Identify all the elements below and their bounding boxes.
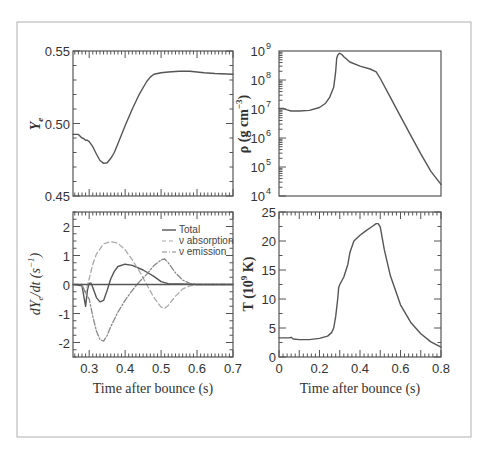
y-tick-label: 10 <box>251 189 265 204</box>
x-tick-label: 0.2 <box>310 361 328 376</box>
y-axis-title: T (109 K) <box>239 256 257 311</box>
y-tick-exponent: 8 <box>266 70 271 80</box>
y-tick-label: 10 <box>251 160 265 175</box>
x-tick-label: 0.3 <box>80 361 98 376</box>
y-tick-exponent: 5 <box>266 157 271 167</box>
x-tick-label: 0.4 <box>351 361 369 376</box>
y-tick-label: -2 <box>58 336 70 351</box>
x-axis-title: Time after bounce (s) <box>93 381 214 397</box>
y-tick-label: 1 <box>63 249 70 264</box>
y-tick-label: 20 <box>262 234 276 249</box>
y-tick-label: 0.50 <box>45 117 70 132</box>
y-tick-label: 10 <box>251 73 265 88</box>
y-tick-label: 10 <box>251 44 265 59</box>
x-tick-label: 0.4 <box>116 361 134 376</box>
y-tick-label: 0 <box>269 350 276 365</box>
x-tick-label: 0.5 <box>152 361 170 376</box>
x-tick-label: 0.6 <box>391 361 409 376</box>
x-tick-label: 0.8 <box>432 361 450 376</box>
legend-label-emission: ν emission <box>179 246 226 257</box>
y-tick-label: 25 <box>262 205 276 220</box>
legend-label-absorption: ν absorption <box>179 235 233 246</box>
y-tick-label: 0 <box>63 278 70 293</box>
y-tick-exponent: 4 <box>266 186 271 196</box>
y-tick-label: 0.55 <box>45 44 70 59</box>
y-tick-label: 5 <box>269 321 276 336</box>
y-tick-label: 15 <box>262 263 276 278</box>
y-tick-label: -1 <box>58 307 70 322</box>
figure: 0.450.500.55 Ye 104105106107108109 ρ (g … <box>0 0 487 453</box>
x-tick-label: 0.7 <box>224 361 242 376</box>
legend-label-total: Total <box>179 224 200 235</box>
y-tick-label: 0.45 <box>45 189 70 204</box>
y-tick-exponent: 9 <box>266 41 271 51</box>
y-tick-label: 10 <box>251 131 265 146</box>
y-tick-label: 10 <box>251 102 265 117</box>
x-axis-title: Time after bounce (s) <box>300 381 421 397</box>
y-tick-exponent: 6 <box>266 128 271 138</box>
y-tick-label: 2 <box>63 220 70 235</box>
x-tick-label: 0.6 <box>188 361 206 376</box>
y-tick-label: 10 <box>262 292 276 307</box>
x-tick-label: 0 <box>275 361 282 376</box>
y-tick-exponent: 7 <box>266 99 271 109</box>
